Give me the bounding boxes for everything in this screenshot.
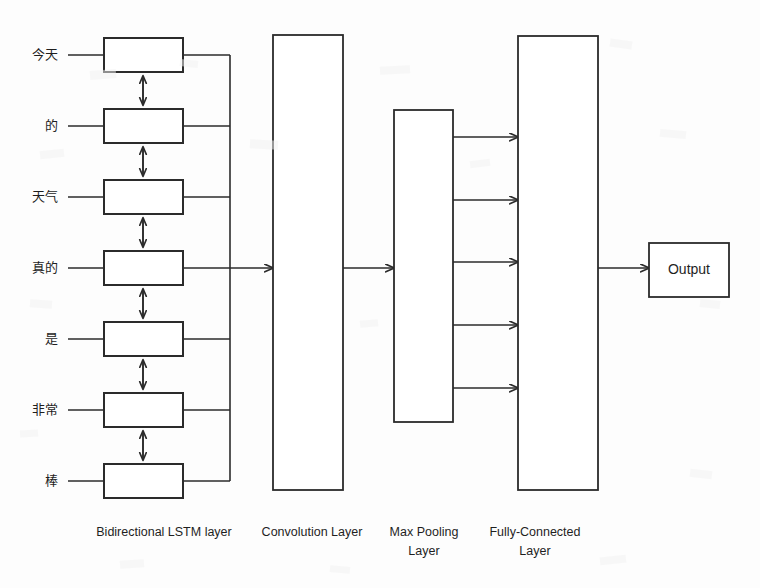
architecture-diagram: 今天 的 天气 真的 是 非常 棒	[0, 0, 760, 588]
lstm-cell-5[interactable]	[104, 393, 183, 427]
lstm-cell-2[interactable]	[104, 180, 183, 214]
convolution-layer-box[interactable]	[273, 35, 343, 490]
lstm-cell-0[interactable]	[104, 38, 183, 72]
lstm-cell-6[interactable]	[104, 464, 183, 498]
caption-max-pooling-layer-line1: Max Pooling	[390, 525, 459, 539]
input-token-label-0: 今天	[32, 47, 58, 62]
max-pooling-layer-box[interactable]	[394, 110, 453, 422]
caption-fully-connected-layer-line1: Fully-Connected	[489, 525, 580, 539]
fully-connected-layer-box[interactable]	[518, 36, 598, 490]
caption-bidirectional-lstm-layer: Bidirectional LSTM layer	[96, 525, 231, 539]
input-token-label-1: 的	[45, 118, 58, 133]
diagram-canvas: 今天 的 天气 真的 是 非常 棒	[0, 0, 760, 588]
lstm-cells	[104, 38, 183, 498]
input-token-label-4: 是	[45, 331, 58, 346]
input-lead-wires	[68, 55, 104, 481]
input-token-label-6: 棒	[45, 473, 58, 488]
output-label: Output	[668, 261, 710, 277]
input-token-label-3: 真的	[32, 260, 58, 275]
input-token-label-2: 天气	[32, 189, 58, 204]
lstm-cell-3[interactable]	[104, 251, 183, 285]
layer-captions: Bidirectional LSTM layer Convolution Lay…	[96, 525, 580, 558]
input-token-label-5: 非常	[32, 402, 58, 417]
lstm-output-bus	[183, 55, 230, 481]
lstm-cell-4[interactable]	[104, 322, 183, 356]
caption-fully-connected-layer-line2: Layer	[519, 544, 550, 558]
caption-convolution-layer: Convolution Layer	[262, 525, 363, 539]
arrows-maxpooling-to-fullyconnected	[453, 137, 518, 388]
input-token-labels: 今天 的 天气 真的 是 非常 棒	[32, 47, 58, 488]
caption-max-pooling-layer-line2: Layer	[408, 544, 439, 558]
lstm-cell-1[interactable]	[104, 109, 183, 143]
